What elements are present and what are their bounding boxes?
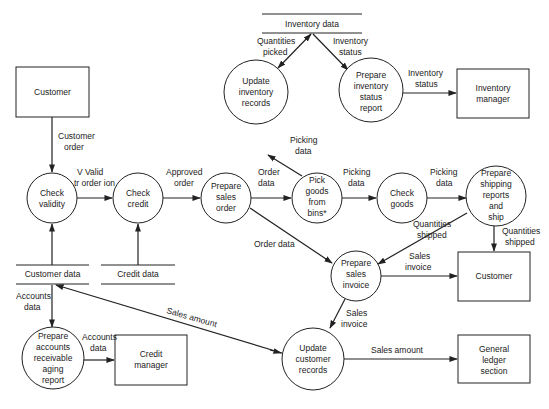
- svg-text:invoice: invoice: [405, 262, 432, 272]
- svg-text:status: status: [415, 79, 438, 89]
- label-picking-data-1: Picking: [343, 167, 371, 177]
- label-quantities-shipped-1: Quantities: [413, 219, 451, 229]
- svg-text:Credit data: Credit data: [117, 269, 159, 279]
- label-picking-data-2: Picking: [430, 167, 458, 177]
- svg-text:goods: goods: [390, 199, 413, 209]
- data-flow-diagram: Customer Inventory manager Credit manage…: [0, 0, 549, 409]
- svg-text:Prepare: Prepare: [481, 168, 512, 178]
- svg-text:report: report: [360, 103, 383, 113]
- svg-text:data: data: [90, 343, 107, 353]
- label-accounts-data-2: Accounts: [82, 332, 117, 342]
- svg-text:ledger: ledger: [482, 355, 506, 365]
- svg-text:shipped: shipped: [505, 237, 535, 247]
- process-update-inventory: Update inventory records: [224, 60, 288, 124]
- label-sales-amount-2: Sales amount: [371, 345, 424, 355]
- svg-text:inventory: inventory: [239, 87, 274, 97]
- svg-text:reports: reports: [483, 190, 509, 200]
- svg-text:validity: validity: [39, 199, 66, 209]
- store-inventory-data: Inventory data: [262, 14, 362, 33]
- svg-text:order: order: [216, 203, 236, 213]
- svg-text:inventory: inventory: [354, 81, 389, 91]
- process-prepare-ar-aging: Prepare accounts receivable aging report: [22, 327, 84, 389]
- label-inventory-status-1: Inventory: [333, 36, 369, 46]
- svg-text:manager: manager: [134, 360, 168, 370]
- svg-text:section: section: [481, 366, 508, 376]
- svg-text:customer: customer: [296, 354, 331, 364]
- svg-text:receivable: receivable: [34, 353, 73, 363]
- svg-text:and: and: [489, 201, 503, 211]
- svg-text:Check: Check: [40, 188, 65, 198]
- svg-text:Check: Check: [126, 188, 151, 198]
- svg-text:invoice: invoice: [343, 280, 370, 290]
- label-sales-invoice-1: Sales: [409, 251, 430, 261]
- label-quantities-picked: Quantities: [257, 36, 295, 46]
- svg-text:ship: ship: [488, 212, 504, 222]
- entity-customer-top: Customer: [16, 67, 89, 117]
- svg-text:Customer data: Customer data: [25, 269, 81, 279]
- svg-text:Inventory data: Inventory data: [285, 19, 339, 29]
- svg-text:sales: sales: [216, 192, 236, 202]
- process-prepare-shipping: Prepare shipping reports and ship: [466, 166, 526, 226]
- svg-text:Prepare: Prepare: [341, 258, 372, 268]
- svg-text:Prepare: Prepare: [38, 331, 69, 341]
- svg-text:accounts: accounts: [36, 342, 70, 352]
- svg-text:shipping: shipping: [480, 179, 512, 189]
- svg-text:Customer: Customer: [34, 87, 71, 97]
- svg-text:Update: Update: [299, 343, 327, 353]
- svg-text:tr order ion: tr order ion: [74, 178, 115, 188]
- svg-text:credit: credit: [128, 199, 149, 209]
- label-order-data-2: Order data: [254, 239, 295, 249]
- svg-text:order: order: [64, 142, 84, 152]
- svg-text:from: from: [309, 197, 326, 207]
- svg-text:records: records: [299, 365, 327, 375]
- process-update-customer-records: Update customer records: [282, 328, 344, 390]
- svg-text:records: records: [242, 98, 270, 108]
- process-check-goods: Check goods: [377, 173, 427, 223]
- label-picking-data-up: Picking: [290, 135, 318, 145]
- label-quantities-shipped-2: Quantities: [502, 226, 540, 236]
- svg-text:data: data: [258, 178, 275, 188]
- svg-text:invoice: invoice: [341, 319, 368, 329]
- process-prepare-sales-invoice: Prepare sales invoice: [331, 251, 381, 301]
- process-check-validity: Check validity: [27, 173, 77, 223]
- svg-text:Prepare: Prepare: [211, 181, 242, 191]
- svg-text:manager: manager: [476, 94, 510, 104]
- svg-text:data: data: [24, 302, 41, 312]
- label-order-data: Order: [258, 167, 280, 177]
- svg-text:General: General: [479, 344, 509, 354]
- svg-text:Inventory: Inventory: [476, 83, 512, 93]
- label-inventory-status-2: Inventory: [408, 68, 444, 78]
- process-check-credit: Check credit: [113, 173, 163, 223]
- svg-text:status: status: [339, 47, 362, 57]
- svg-text:data: data: [295, 146, 312, 156]
- svg-text:order: order: [174, 178, 194, 188]
- svg-text:bins*: bins*: [308, 208, 328, 218]
- process-pick-goods: Pick goods from bins*: [292, 173, 342, 223]
- svg-text:Customer: Customer: [476, 271, 513, 281]
- process-prepare-sales-order: Prepare sales order: [201, 173, 251, 223]
- svg-text:report: report: [42, 375, 65, 385]
- label-accounts-data-1: Accounts: [16, 291, 51, 301]
- store-customer-data: Customer data: [16, 265, 89, 284]
- svg-text:data: data: [436, 178, 453, 188]
- svg-text:Pick: Pick: [309, 175, 326, 185]
- label-valid-order: V Valid: [77, 167, 104, 177]
- svg-text:sales: sales: [346, 269, 366, 279]
- svg-text:status: status: [360, 92, 383, 102]
- label-customer-order: Customer: [58, 131, 95, 141]
- label-sales-invoice-2: Sales: [346, 308, 367, 318]
- svg-text:Update: Update: [242, 76, 270, 86]
- svg-text:Prepare: Prepare: [356, 70, 387, 80]
- process-prepare-inventory-report: Prepare inventory status report: [339, 58, 403, 122]
- svg-text:data: data: [348, 178, 365, 188]
- svg-text:goods: goods: [305, 186, 328, 196]
- store-credit-data: Credit data: [101, 265, 175, 284]
- svg-text:shipped: shipped: [417, 230, 447, 240]
- entity-general-ledger: General ledger section: [458, 335, 530, 383]
- entity-customer-right: Customer: [458, 252, 530, 301]
- svg-text:Check: Check: [390, 188, 415, 198]
- entity-credit-manager: Credit manager: [115, 335, 187, 385]
- entity-inventory-manager: Inventory manager: [457, 69, 529, 118]
- svg-text:Credit: Credit: [140, 349, 163, 359]
- svg-text:aging: aging: [43, 364, 64, 374]
